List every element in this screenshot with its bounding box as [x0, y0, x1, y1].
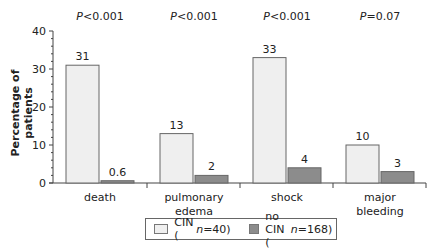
bar — [346, 145, 379, 183]
legend-swatch-no-cin — [249, 224, 260, 234]
bar — [253, 58, 286, 183]
bar-value-label: 10 — [356, 130, 370, 143]
bar — [66, 65, 99, 183]
bar-value-label: 2 — [208, 160, 215, 173]
bar-value-label: 31 — [76, 50, 90, 63]
y-axis-label: Percentage of patients — [9, 53, 35, 173]
y-tick-label: 0 — [39, 177, 46, 190]
x-category-label: majorbleeding — [356, 191, 404, 218]
bar-value-label: 13 — [170, 119, 184, 132]
bar-value-label: 0.6 — [109, 166, 127, 179]
pvalue-major-bleeding: P=0.07 — [335, 10, 425, 23]
y-tick-label: 40 — [32, 25, 46, 38]
bar — [101, 181, 134, 183]
bar-value-label: 33 — [263, 43, 277, 56]
bar — [381, 172, 414, 183]
legend-swatch-cin — [154, 224, 168, 234]
bar-value-label: 3 — [394, 157, 401, 170]
bar-chart: 010203040310.6death132pulmonaryedema334s… — [0, 0, 448, 251]
bar-value-label: 4 — [301, 153, 308, 166]
bar — [160, 134, 193, 183]
x-category-label: death — [84, 191, 116, 204]
legend-item-no-cin: no CIN (n=168) — [249, 210, 333, 249]
x-category-label: pulmonaryedema — [164, 191, 224, 218]
bar — [195, 175, 228, 183]
pvalue-pulmonary-edema: P<0.001 — [149, 10, 239, 23]
legend-item-cin: CIN (n=40) — [154, 216, 231, 242]
bars — [66, 58, 414, 183]
pvalue-death: P<0.001 — [55, 10, 145, 23]
pvalue-shock: P<0.001 — [242, 10, 332, 23]
legend: CIN (n=40) no CIN (n=168) — [145, 218, 337, 240]
bar — [288, 168, 321, 183]
x-category-label: shock — [271, 191, 303, 204]
